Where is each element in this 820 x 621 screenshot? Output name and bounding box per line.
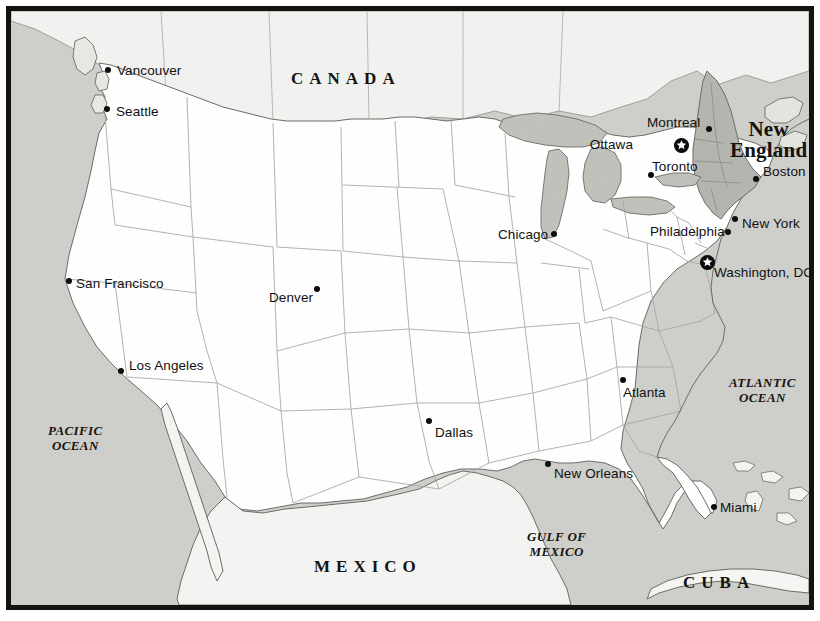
map-geometry [11,11,809,605]
city-marker-san-francisco[interactable] [66,278,72,284]
map-frame-border: VancouverSeattleSan FranciscoLos Angeles… [6,6,814,610]
city-marker-seattle[interactable] [104,106,110,112]
capital-marker-washington-dc[interactable] [700,255,715,270]
city-marker-denver[interactable] [314,286,320,292]
city-marker-philadelphia[interactable] [725,229,731,235]
city-marker-atlanta[interactable] [620,377,626,383]
city-marker-vancouver[interactable] [105,67,111,73]
capital-marker-ottawa[interactable] [674,138,689,153]
city-marker-toronto[interactable] [648,172,654,178]
city-marker-boston[interactable] [753,176,759,182]
map-canvas: VancouverSeattleSan FranciscoLos Angeles… [11,11,809,605]
city-marker-los-angeles[interactable] [118,368,124,374]
city-marker-chicago[interactable] [551,231,557,237]
city-marker-new-orleans[interactable] [545,461,551,467]
city-marker-dallas[interactable] [426,418,432,424]
city-marker-miami[interactable] [711,504,717,510]
city-marker-montreal[interactable] [706,126,712,132]
map-figure: VancouverSeattleSan FranciscoLos Angeles… [0,0,820,621]
city-marker-new-york[interactable] [732,216,738,222]
